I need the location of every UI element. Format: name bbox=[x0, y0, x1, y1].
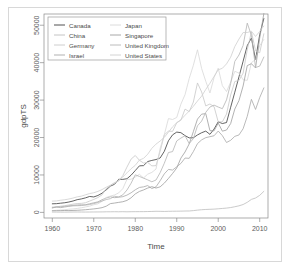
legend-label: Japan bbox=[125, 22, 142, 29]
x-axis-tick-label: 2000 bbox=[210, 225, 226, 232]
legend-label: China bbox=[69, 32, 86, 39]
y-axis-tick-label: 40000 bbox=[34, 53, 41, 73]
legend-label: Canada bbox=[69, 22, 91, 29]
series-line-israel bbox=[52, 88, 264, 208]
y-axis-tick-label: 0 bbox=[34, 210, 41, 214]
y-axis-tick-label: 50000 bbox=[34, 15, 41, 35]
chart-page: 1960197019801990200020100100002000030000… bbox=[0, 0, 290, 270]
legend-label: Israel bbox=[69, 52, 84, 59]
x-axis-tick-label: 2010 bbox=[252, 225, 268, 232]
y-axis-title: gdpTS bbox=[19, 104, 28, 128]
line-chart: 1960197019801990200020100100002000030000… bbox=[0, 0, 290, 270]
y-axis-tick-label: 30000 bbox=[34, 90, 41, 110]
legend-label: Germany bbox=[69, 42, 95, 49]
x-axis-title: Time bbox=[147, 242, 165, 251]
series-line-japan bbox=[52, 39, 264, 210]
x-axis-tick-label: 1990 bbox=[169, 225, 185, 232]
y-axis-tick-label: 10000 bbox=[34, 165, 41, 185]
legend-label: Singapore bbox=[125, 32, 154, 39]
x-axis-tick-label: 1980 bbox=[127, 225, 143, 232]
legend-label: United Kingdom bbox=[125, 42, 169, 49]
x-axis-tick-label: 1970 bbox=[86, 225, 102, 232]
chart-svg: 1960197019801990200020100100002000030000… bbox=[0, 0, 290, 270]
legend-label: United States bbox=[125, 52, 162, 59]
series-line-china bbox=[52, 191, 264, 212]
y-axis-tick-label: 20000 bbox=[34, 128, 41, 148]
x-axis-tick-label: 1960 bbox=[45, 225, 61, 232]
